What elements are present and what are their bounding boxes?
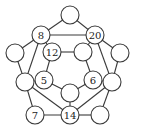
node-circle [16,73,34,91]
graph-node [6,44,24,62]
node-circle [103,73,121,91]
node-label: 5 [41,75,47,86]
graph-node [111,44,129,62]
graph-node: 14 [61,106,79,124]
graph-node [61,84,79,102]
graph-node [16,73,34,91]
graph-node [61,6,79,24]
graph-node: 6 [84,71,102,89]
graph-nodes: 8201256714 [6,6,129,124]
graph-node: 7 [26,106,44,124]
node-label: 8 [38,30,44,41]
node-circle [61,6,79,24]
node-circle [6,44,24,62]
node-circle [91,106,109,124]
graph-node: 5 [35,71,53,89]
graph-diagram: 8201256714 [0,0,142,138]
graph-node: 12 [43,43,61,61]
node-label: 14 [64,110,77,121]
node-label: 6 [90,75,96,86]
graph-node [74,43,92,61]
graph-node: 20 [86,26,104,44]
node-label: 12 [46,47,59,58]
graph-node [91,106,109,124]
graph-node: 8 [32,26,50,44]
node-circle [61,84,79,102]
graph-node [103,73,121,91]
node-circle [111,44,129,62]
node-label: 20 [89,30,102,41]
node-label: 7 [32,110,38,121]
node-circle [74,43,92,61]
